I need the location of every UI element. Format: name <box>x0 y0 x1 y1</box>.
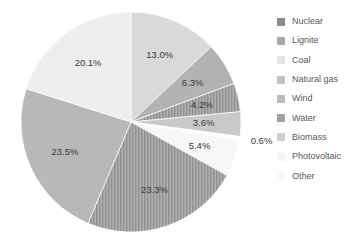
chart-legend: NuclearLigniteCoalNatural gasWindWaterBi… <box>277 12 363 186</box>
legend-swatch-icon <box>277 37 285 45</box>
legend-item-label: Water <box>292 114 316 123</box>
legend-swatch-icon <box>277 172 285 180</box>
legend-swatch-icon <box>277 18 285 26</box>
legend-item[interactable]: Wind <box>277 89 363 108</box>
slice-value-label: 6.3% <box>182 77 204 88</box>
legend-swatch-icon <box>277 95 285 103</box>
pie-chart-figure: 13.0%6.3%4.2%3.6%0.6%5.4%23.3%23.5%20.1%… <box>0 0 364 245</box>
legend-swatch-icon <box>277 56 285 64</box>
legend-swatch-icon <box>277 76 285 84</box>
legend-item[interactable]: Water <box>277 108 363 127</box>
slice-value-label: 4.2% <box>191 99 213 110</box>
slice-value-label: 13.0% <box>146 49 173 60</box>
slice-value-label: 20.1% <box>75 57 102 68</box>
legend-item-label: Coal <box>292 56 311 65</box>
legend-item-label: Lignite <box>292 36 319 45</box>
legend-item-label: Wind <box>292 94 313 103</box>
slice-value-label: 5.4% <box>189 140 211 151</box>
legend-item[interactable]: Natural gas <box>277 70 363 89</box>
legend-item[interactable]: Lignite <box>277 31 363 50</box>
slice-value-label: 0.6% <box>251 135 273 146</box>
legend-item[interactable]: Nuclear <box>277 12 363 31</box>
legend-item-label: Biomass <box>292 133 327 142</box>
legend-item-label: Other <box>292 172 315 181</box>
slice-value-label: 23.5% <box>52 146 79 157</box>
legend-swatch-icon <box>277 153 285 161</box>
legend-swatch-icon <box>277 133 285 141</box>
legend-item[interactable]: Photovoltaic <box>277 147 363 166</box>
legend-swatch-icon <box>277 114 285 122</box>
legend-item[interactable]: Other <box>277 166 363 185</box>
legend-item[interactable]: Biomass <box>277 128 363 147</box>
legend-item-label: Photovoltaic <box>292 152 341 161</box>
slice-value-label: 3.6% <box>193 117 215 128</box>
legend-item-label: Natural gas <box>292 75 338 84</box>
legend-item[interactable]: Coal <box>277 51 363 70</box>
slice-value-label: 23.3% <box>141 184 168 195</box>
legend-item-label: Nuclear <box>292 17 323 26</box>
